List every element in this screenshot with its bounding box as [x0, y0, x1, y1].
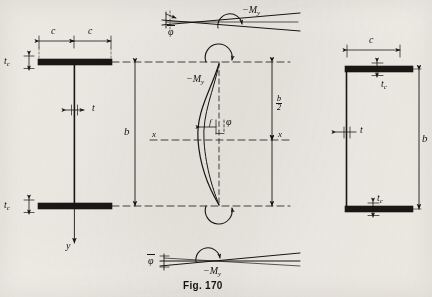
right-dim-c: c	[369, 35, 373, 45]
left-dim-c-left: c	[51, 26, 55, 36]
left-flange-thickness-bottom: tc	[4, 200, 10, 212]
right-depth-b: b	[422, 133, 428, 144]
top-detail-rotation-phi: φ	[168, 27, 174, 37]
center-axis-x-left: x	[152, 130, 156, 139]
bottom-detail-rotation-phi: φ	[148, 256, 154, 266]
center-rotation-phi: φ	[226, 117, 232, 127]
center-axis-x-right: x	[278, 130, 282, 139]
figure-caption: Fig. 170	[183, 280, 223, 291]
right-flange-thickness-top: tc	[381, 79, 387, 91]
top-detail-group	[162, 11, 300, 31]
center-half-depth-fraction: b 2	[276, 95, 282, 113]
center-deflection-f: f	[209, 118, 212, 127]
bottom-detail-moment-label: −My	[203, 266, 221, 278]
left-web-thickness-t: t	[92, 103, 95, 113]
center-moment-top-label: −My	[186, 74, 204, 86]
figure-canvas: c c tc tc t b y −My x x f φ b 2 φ −My φ …	[0, 0, 432, 297]
bottom-detail-group	[160, 248, 300, 270]
left-axis-y-label: y	[66, 241, 70, 251]
figure-linework	[0, 0, 432, 297]
left-depth-b: b	[124, 126, 130, 137]
center-elevation-group	[198, 44, 272, 224]
top-detail-moment-label: −My	[242, 5, 260, 17]
left-section-group	[24, 36, 135, 243]
left-dim-c-right: c	[88, 26, 92, 36]
right-flange-thickness-bottom: tc	[377, 193, 383, 205]
right-web-thickness-t: t	[360, 125, 363, 135]
left-flange-thickness-top: tc	[4, 56, 10, 68]
